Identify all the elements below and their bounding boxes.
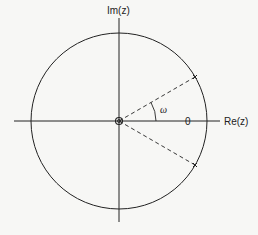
z-plane-diagram: 0 Re(z) Im(z) ω [0,0,258,235]
angle-arc [151,103,156,122]
pole-radius-lower [119,121,195,165]
imag-axis-label: Im(z) [107,5,130,16]
angle-label: ω [160,104,167,115]
pole-radius-upper [119,77,195,121]
zero-label: 0 [185,116,191,127]
pole-lower-icon [193,163,197,167]
real-axis-label: Re(z) [224,116,248,127]
pole-upper-icon [193,75,197,79]
